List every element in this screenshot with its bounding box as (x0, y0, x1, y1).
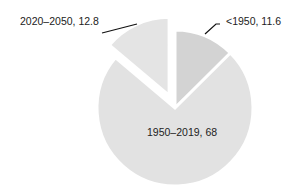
label-1950-2019: 1950–2019, 68 (147, 126, 217, 138)
pie-chart: <1950, 11.6 2020–2050, 12.8 1950–2019, 6… (0, 0, 294, 195)
label-2020-2050: 2020–2050, 12.8 (20, 15, 99, 27)
label-pre-1950: <1950, 11.6 (226, 15, 281, 27)
leader-line-1950 (205, 24, 220, 34)
